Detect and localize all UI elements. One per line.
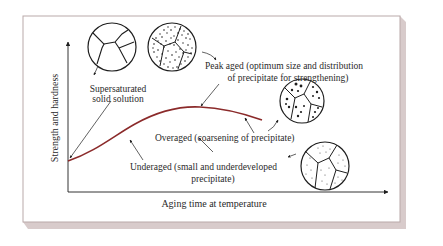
x-axis-label: Aging time at temperature [161, 198, 267, 209]
label-underaged-line1: Underaged (small and underdeveloped [130, 162, 277, 173]
label-supersaturated-line2: solid solution [92, 94, 144, 104]
label-peak-aged-line1: Peak aged (optimum size and distribution [205, 61, 363, 72]
label-underaged-line2: precipitate) [191, 174, 234, 185]
age-hardening-diagram: Strength and hardness Aging time at temp… [0, 0, 443, 246]
label-overaged: Overaged (coarsening of precipitate) [155, 133, 295, 144]
microstructure-supersaturated [88, 23, 136, 71]
microstructure-overaged [280, 79, 324, 123]
microstructure-underaged [301, 142, 349, 190]
card-face [23, 16, 400, 222]
microstructure-peak-aged [148, 23, 196, 71]
y-axis-label: Strength and hardness [49, 74, 60, 162]
label-supersaturated-line1: Supersaturated [90, 84, 147, 94]
label-peak-aged-line2: of precipitate for strengthening) [227, 73, 348, 84]
